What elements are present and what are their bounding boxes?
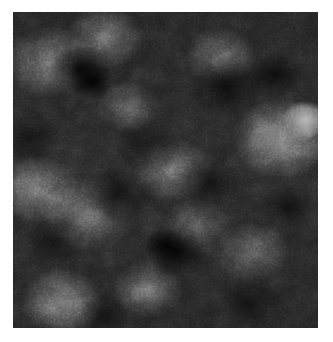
tone-adjust-layer bbox=[13, 12, 318, 328]
page-root bbox=[0, 0, 333, 342]
noise-texture-plate bbox=[13, 12, 318, 328]
